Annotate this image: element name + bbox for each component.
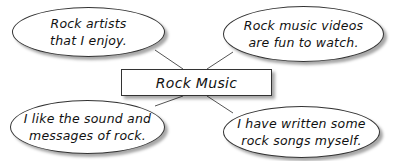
- node-bottom-left: I like the sound and messages of rock.: [10, 100, 165, 154]
- center-topic-box: Rock Music: [121, 69, 272, 96]
- connector-top-left: [155, 50, 183, 69]
- node-text-line: I have written some: [237, 115, 365, 132]
- connector-bottom-left: [155, 96, 183, 106]
- node-text-line: are fun to watch.: [244, 34, 363, 51]
- node-text-line: rock songs myself.: [237, 132, 365, 149]
- node-text-line: messages of rock.: [24, 127, 151, 144]
- connector-top-right: [207, 52, 233, 69]
- node-bottom-right: I have written some rock songs myself.: [223, 106, 380, 158]
- node-text-line: Rock music videos: [244, 17, 363, 34]
- node-top-right: Rock music videos are fun to watch.: [223, 6, 384, 62]
- node-text-line: that I enjoy.: [50, 32, 127, 49]
- connector-bottom-right: [207, 96, 233, 113]
- node-text-line: I like the sound and: [24, 110, 151, 127]
- center-topic-label: Rock Music: [156, 75, 237, 91]
- node-top-left: Rock artists that I enjoy.: [12, 7, 165, 57]
- node-text-line: Rock artists: [50, 15, 127, 32]
